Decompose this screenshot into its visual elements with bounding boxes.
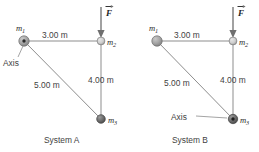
force-label: F	[237, 8, 244, 18]
mass-m2	[229, 37, 237, 45]
mass-m2-sphere	[97, 37, 105, 45]
mass-m3	[97, 115, 106, 124]
system-b-caption: System B	[172, 135, 208, 145]
mass-m2-label-group: m 2	[107, 37, 116, 48]
dimension-hyp-5m: 5.00 m	[34, 80, 60, 90]
axis-marker-dot	[231, 117, 234, 120]
mass-m1	[152, 36, 162, 46]
force-label-group: F	[105, 5, 114, 18]
system-a: F m 1 m 2 m 3	[3, 5, 117, 145]
dimension-top-3m: 3.00 m	[42, 30, 68, 40]
mass-m3-subscript: 3	[245, 119, 249, 126]
mass-m2-subscript: 2	[113, 41, 116, 48]
mass-m2-sphere	[229, 37, 237, 45]
force-arrow-m2	[229, 7, 236, 38]
dimension-top-3m: 3.00 m	[174, 30, 200, 40]
mass-m1-subscript: 1	[22, 27, 25, 34]
axis-marker-dot	[22, 39, 25, 42]
force-arrow-m2	[97, 7, 104, 38]
mass-m3-subscript: 3	[113, 119, 117, 126]
mass-m2	[97, 37, 105, 45]
physics-figure: F m 1 m 2 m 3	[0, 0, 259, 152]
axis-leader-line	[18, 46, 23, 57]
mass-m3	[228, 114, 237, 123]
mass-m2-subscript: 2	[245, 41, 248, 48]
dimension-right-4m: 4.00 m	[220, 75, 246, 85]
axis-leader-line	[196, 116, 227, 118]
axis-annotation: Axis	[171, 112, 227, 122]
mass-m3-sphere	[97, 115, 106, 124]
diagram-canvas: F m 1 m 2 m 3	[0, 0, 259, 152]
dimension-hyp-5m: 5.00 m	[164, 78, 190, 88]
mass-m1	[19, 36, 29, 46]
dimension-right-4m: 4.00 m	[88, 75, 114, 85]
axis-label: Axis	[171, 112, 187, 122]
mass-m3-label-group: m 3	[240, 115, 249, 126]
mass-m1-sphere	[152, 36, 162, 46]
system-b: F m 1 m 2 m 3	[149, 5, 249, 145]
axis-annotation: Axis	[3, 46, 23, 68]
mass-m1-label-group: m 1	[16, 23, 25, 34]
force-label-group: F	[237, 5, 246, 18]
system-a-caption: System A	[44, 135, 80, 145]
mass-m1-subscript: 1	[155, 27, 158, 34]
mass-m3-label-group: m 3	[108, 115, 117, 126]
mass-m1-label-group: m 1	[149, 23, 158, 34]
force-label: F	[105, 8, 112, 18]
axis-label: Axis	[3, 58, 19, 68]
mass-m2-label-group: m 2	[239, 37, 248, 48]
